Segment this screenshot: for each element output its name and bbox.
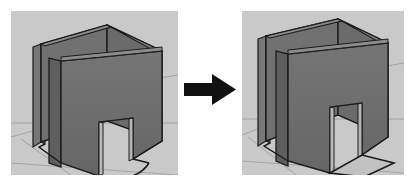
door-jamb-right [129, 118, 133, 161]
wall-front-left-thickness [276, 51, 288, 166]
door-jamb-right [358, 103, 362, 157]
arrow-right-icon [184, 73, 236, 106]
door-jamb-left [99, 122, 103, 175]
after-model-canvas [242, 11, 404, 175]
before-model-canvas [11, 11, 178, 175]
wall-front-left-thickness [49, 58, 61, 167]
comparison-figure: Open-top rectangular box room in axonome… [0, 0, 414, 185]
arrow-right-glyph [184, 74, 236, 105]
before-panel[interactable] [11, 11, 178, 175]
after-panel[interactable] [242, 11, 404, 175]
door-jamb-left [330, 107, 334, 173]
